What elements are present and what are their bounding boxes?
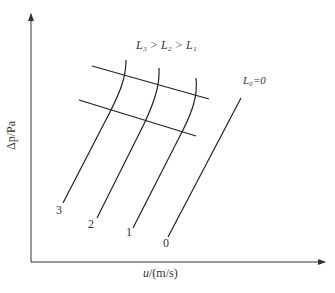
curve-3-label: 3 (56, 203, 62, 218)
curve-0-label: 0 (163, 236, 169, 251)
x-axis-label: u/(m/s) (143, 266, 178, 281)
curve-0 (168, 98, 241, 237)
lower-operating-line (79, 100, 196, 136)
curve-1-label: 1 (126, 225, 132, 240)
curve-1 (133, 78, 196, 228)
l0-annotation: L₀=0 (243, 74, 266, 86)
top-annotation: L₃ > L₂ > L₁ (136, 38, 197, 53)
x-axis-unit: /(m/s) (149, 266, 178, 280)
curve-2-label: 2 (88, 217, 94, 232)
y-axis-label: Δp/Pa (4, 121, 19, 150)
upper-operating-line (92, 66, 209, 99)
curve-3 (63, 60, 126, 203)
